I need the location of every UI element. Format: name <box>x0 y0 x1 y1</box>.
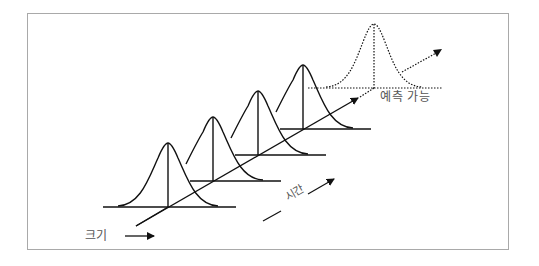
distribution-curve-4 <box>276 65 371 129</box>
predicted-distribution-curve <box>308 24 442 88</box>
distribution-diagram <box>0 0 539 266</box>
distribution-curve-2 <box>186 117 281 181</box>
distribution-curve-3 <box>231 91 326 155</box>
size-axis-diagonal <box>136 207 168 226</box>
time-axis-dotted-extension <box>360 88 374 97</box>
time-label-arrow <box>308 179 334 194</box>
distribution-curve-1 <box>103 143 236 207</box>
predicted-arrow-head <box>433 49 442 57</box>
predictable-label: 예측 가능 <box>380 91 430 103</box>
time-label-line-left <box>263 211 281 221</box>
size-axis-label: 크기 <box>85 230 107 242</box>
